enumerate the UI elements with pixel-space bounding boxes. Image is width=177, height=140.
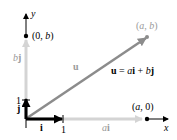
vector-diagram: y x (0, b) (a, 0) (a, b) bj ai j i 1 1 u… (0, 0, 177, 140)
point-a-0 (145, 117, 149, 121)
point-0-b-label: (0, b) (32, 30, 54, 42)
y-tick-label: 1 (16, 95, 21, 106)
x-tick-label: 1 (61, 124, 66, 135)
u-vector (27, 38, 146, 118)
ai-label: ai (102, 122, 110, 133)
equation: u = ai + bj (111, 65, 154, 76)
point-a-b (145, 35, 149, 39)
point-a-0-label: (a, 0) (132, 101, 154, 113)
bj-label: bj (13, 52, 21, 63)
x-axis-label: x (163, 122, 169, 133)
point-a-b-label: (a, b) (136, 20, 158, 32)
y-axis-label: y (30, 8, 36, 19)
point-0-b (24, 34, 28, 38)
i-label: i (40, 122, 43, 133)
u-label: u (73, 61, 79, 72)
